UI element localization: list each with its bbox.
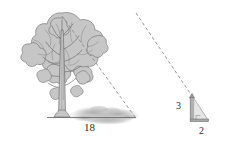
vertical-pole — [190, 94, 209, 122]
tree-shadow-ellipse — [69, 106, 139, 125]
diagram-canvas: 18 3 2 — [0, 0, 225, 143]
pole-height-label: 3 — [176, 101, 181, 111]
dashed-sun-ray-pole — [136, 13, 192, 96]
shadow-similar-triangles-svg — [0, 0, 225, 143]
tree-root-flare — [54, 110, 70, 117]
pole-shadow-length-label: 2 — [199, 126, 204, 136]
tree-illustration — [21, 12, 108, 117]
tree-shadow-length-label: 18 — [84, 122, 95, 133]
pole-shadow-baseline — [190, 119, 208, 122]
